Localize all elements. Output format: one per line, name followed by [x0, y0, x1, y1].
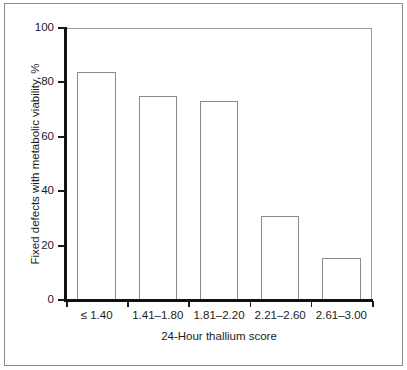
- x-axis-line: [64, 299, 373, 302]
- y-axis-title: Fixed defects with metabolic viability, …: [26, 28, 44, 300]
- y-axis-tick: [58, 190, 65, 192]
- x-axis-tick: [311, 301, 313, 307]
- x-axis-tick-label: 1.81–2.20: [188, 309, 249, 322]
- bar: [139, 96, 177, 300]
- x-axis-tick-label: ≤ 1.40: [66, 309, 127, 322]
- bar: [200, 101, 238, 300]
- x-axis-tick-label: 2.61–3.00: [311, 309, 372, 322]
- y-axis-tick: [58, 245, 65, 247]
- x-axis-tick: [372, 301, 374, 307]
- y-axis-tick: [58, 81, 65, 83]
- bar: [261, 216, 299, 300]
- x-axis-tick: [188, 301, 190, 307]
- y-axis-line: [64, 27, 67, 302]
- y-axis-tick: [58, 299, 65, 301]
- bar: [77, 72, 115, 300]
- y-axis-tick: [58, 136, 65, 138]
- x-axis-tick-label: 2.21–2.60: [250, 309, 311, 322]
- x-axis-tick-label: 1.41–1.80: [127, 309, 188, 322]
- x-axis-tick: [66, 301, 68, 307]
- x-axis-tick: [127, 301, 129, 307]
- y-axis-tick-label: 0: [48, 294, 54, 306]
- x-axis-tick: [250, 301, 252, 307]
- y-axis-tick: [58, 27, 65, 29]
- figure-bar-chart: 020406080100 ≤ 1.401.41–1.801.81–2.202.2…: [0, 0, 407, 370]
- bar-series: [66, 28, 372, 300]
- plot-area: [66, 28, 372, 300]
- x-axis-title: 24-Hour thallium score: [66, 330, 372, 342]
- bar: [322, 258, 360, 300]
